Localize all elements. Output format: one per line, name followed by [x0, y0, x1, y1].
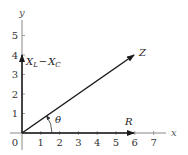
x-tick-label-4: 4 [94, 137, 100, 148]
x-tick-label-1: 1 [38, 137, 44, 148]
y-tick-label-4: 4 [12, 50, 18, 61]
x-tick-label-7: 7 [150, 137, 156, 148]
reactance-label-minus: − [39, 56, 47, 67]
y-axis-label: y [18, 7, 25, 18]
z-label: Z [138, 47, 147, 58]
r-label: R [124, 116, 133, 127]
y-tick-label-1: 1 [12, 108, 18, 119]
reactance-label-sub-c: C [55, 61, 61, 69]
x-tick-label-3: 3 [75, 137, 81, 148]
reactance-label: XL−XC [25, 56, 61, 69]
theta-arc [47, 116, 52, 133]
x-axis-label: x [171, 127, 177, 138]
y-tick-label-3: 3 [12, 69, 18, 80]
reactance-label-sub-l: L [32, 61, 38, 69]
x-tick-label-2: 2 [56, 137, 62, 148]
y-tick-label-2: 2 [12, 89, 18, 100]
x-tick-label-6: 6 [132, 137, 138, 148]
origin-label: 0 [12, 137, 18, 148]
theta-label: θ [55, 114, 61, 125]
y-tick-label-5: 5 [12, 30, 18, 41]
x-tick-label-5: 5 [113, 137, 119, 148]
impedance-diagram: 1 2 3 4 5 6 7 0 1 2 3 4 5 x y θ Z R XL−X… [0, 0, 188, 155]
